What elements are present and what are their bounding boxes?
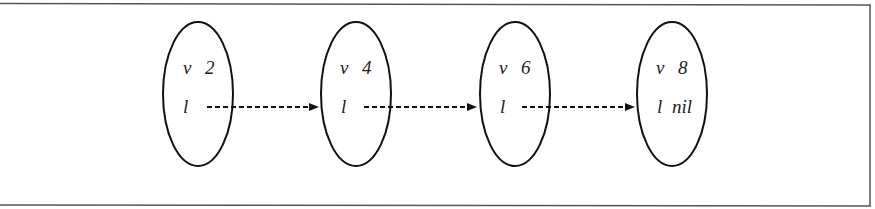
node-3-value: 6 [521, 57, 531, 78]
node-1: v 2 l [163, 22, 233, 166]
node-3-link-label: l [500, 96, 505, 117]
node-2-value: 4 [362, 57, 372, 78]
node-4-link-label: l [657, 96, 662, 117]
node-2-value-label: v [340, 57, 349, 78]
node-3-value-label: v [499, 57, 508, 78]
node-4-value: 8 [678, 57, 688, 78]
frame-bottom-border [0, 205, 871, 206]
node-4: v 8 l nil [637, 22, 707, 166]
node-4-nil-label: nil [672, 96, 692, 117]
node-4-value-label: v [656, 57, 665, 78]
node-1-value: 2 [205, 57, 215, 78]
frame-top-border [0, 4, 871, 6]
node-1-value-label: v [183, 57, 192, 78]
node-3: v 6 l [480, 22, 550, 166]
linked-list-diagram: v 2 l v 4 l v 6 l v 8 l nil [0, 0, 875, 209]
node-1-link-label: l [183, 96, 188, 117]
node-2: v 4 l [321, 22, 391, 166]
node-2-link-label: l [341, 96, 346, 117]
